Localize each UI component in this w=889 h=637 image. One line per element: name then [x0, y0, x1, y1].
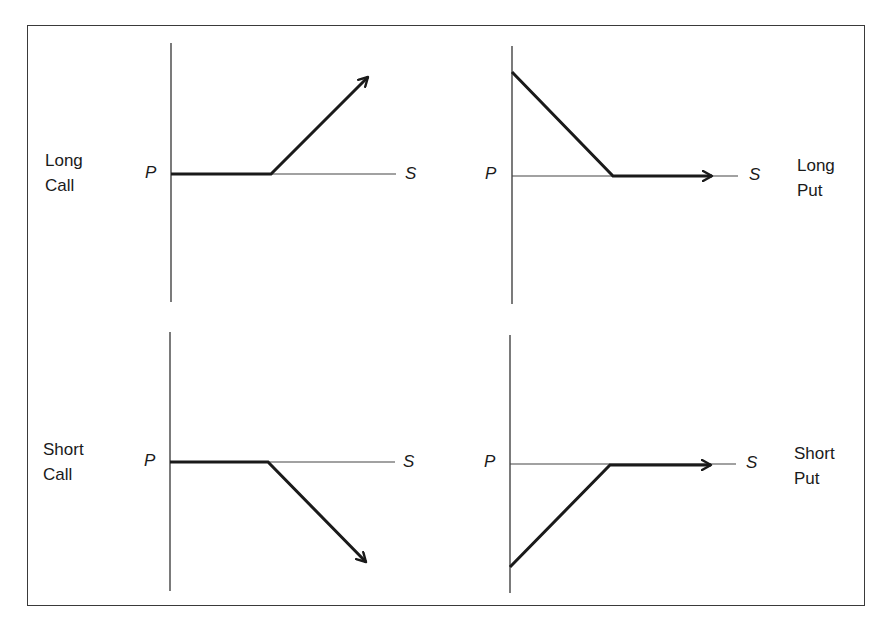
panel-label-short-put: Short Put	[794, 441, 835, 491]
label-line2: Call	[43, 462, 84, 487]
payoff-line	[510, 465, 711, 567]
payoff-line	[170, 462, 366, 562]
payoff-diagrams	[0, 0, 889, 637]
label-line2: Put	[794, 466, 835, 491]
panel-label-long-put: Long Put	[797, 153, 835, 203]
y-axis-label: P	[484, 452, 495, 472]
label-line1: Long	[797, 153, 835, 178]
label-line1: Long	[45, 148, 83, 173]
panel-long-call	[171, 43, 396, 302]
x-axis-label: S	[749, 165, 760, 185]
label-line1: Short	[43, 437, 84, 462]
panel-short-put	[510, 335, 736, 593]
panel-label-short-call: Short Call	[43, 437, 84, 487]
x-axis-label: S	[746, 453, 757, 473]
payoff-line	[171, 77, 368, 174]
payoff-line	[512, 72, 712, 176]
y-axis-label: P	[144, 451, 155, 471]
panel-short-call	[170, 332, 395, 591]
y-axis-label: P	[485, 164, 496, 184]
x-axis-label: S	[403, 452, 414, 472]
x-axis-label: S	[405, 164, 416, 184]
label-line2: Put	[797, 178, 835, 203]
panel-label-long-call: Long Call	[45, 148, 83, 198]
label-line2: Call	[45, 173, 83, 198]
y-axis-label: P	[145, 163, 156, 183]
panel-long-put	[512, 46, 738, 304]
label-line1: Short	[794, 441, 835, 466]
